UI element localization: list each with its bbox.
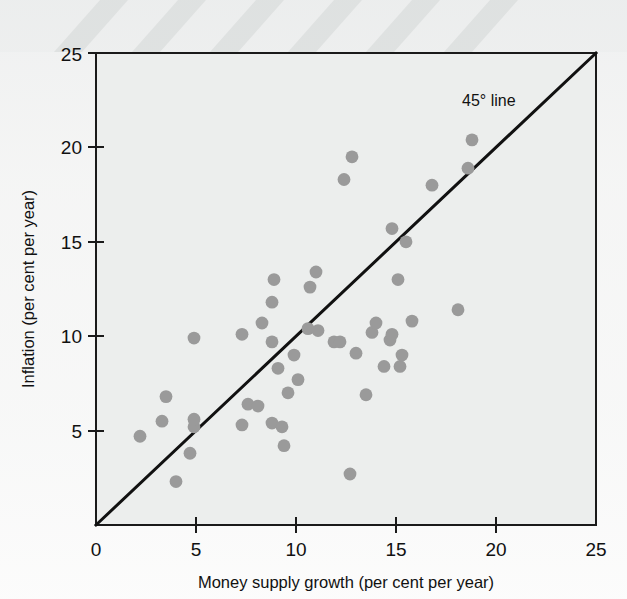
scatter-point (304, 281, 317, 294)
scatter-point (310, 266, 323, 279)
scatter-point (344, 468, 357, 481)
scatter-point (426, 179, 439, 192)
page-background: 5 10 15 20 25 0 5 10 15 20 25 45° line M… (0, 0, 627, 599)
scatter-point (406, 315, 419, 328)
scatter-point (386, 222, 399, 235)
scatter-point (462, 162, 475, 175)
scatter-point (252, 400, 265, 413)
scatter-point (400, 235, 413, 248)
scatter-point (134, 430, 147, 443)
scatter-chart: 5 10 15 20 25 0 5 10 15 20 25 45° line M… (0, 0, 627, 599)
scatter-point (394, 360, 407, 373)
y-tick-label-10: 10 (61, 326, 82, 347)
x-tick-label-0: 0 (91, 539, 102, 560)
scatter-point (268, 273, 281, 286)
x-tick-label-10: 10 (285, 539, 306, 560)
y-tick-label-5: 5 (71, 421, 82, 442)
y-tick-label-15: 15 (61, 232, 82, 253)
scatter-point (350, 347, 363, 360)
scatter-point (188, 413, 201, 426)
chart-svg: 5 10 15 20 25 0 5 10 15 20 25 45° line M… (0, 0, 627, 599)
scatter-point (156, 415, 169, 428)
scatter-point (396, 349, 409, 362)
x-tick-label-25: 25 (585, 539, 606, 560)
scatter-point (256, 317, 269, 330)
scatter-point (360, 388, 373, 401)
x-tick-label-5: 5 (191, 539, 202, 560)
scatter-point (236, 328, 249, 341)
scatter-point (346, 150, 359, 163)
scatter-point (184, 447, 197, 460)
scatter-point (188, 332, 201, 345)
scatter-point (278, 439, 291, 452)
scatter-point (466, 133, 479, 146)
y-tick-label-20: 20 (61, 137, 82, 158)
diagonal-line-label: 45° line (462, 92, 516, 109)
scatter-point (282, 386, 295, 399)
scatter-point (266, 296, 279, 309)
scatter-point (312, 324, 325, 337)
scatter-point (292, 373, 305, 386)
scatter-point (288, 349, 301, 362)
scatter-point (272, 362, 285, 375)
x-tick-label-15: 15 (385, 539, 406, 560)
scatter-point (392, 273, 405, 286)
scatter-point (386, 328, 399, 341)
scatter-point (236, 419, 249, 432)
scatter-point (452, 303, 465, 316)
y-tick-label-25: 25 (61, 44, 82, 65)
x-tick-label-20: 20 (485, 539, 506, 560)
x-axis-title: Money supply growth (per cent per year) (198, 573, 494, 591)
scatter-point (334, 335, 347, 348)
y-axis-title: Inflation (per cent per year) (19, 190, 37, 388)
scatter-point (266, 335, 279, 348)
scatter-point (370, 317, 383, 330)
scatter-point (276, 420, 289, 433)
scatter-point (160, 390, 173, 403)
scatter-point (378, 360, 391, 373)
scatter-point (170, 475, 183, 488)
scatter-point (338, 173, 351, 186)
